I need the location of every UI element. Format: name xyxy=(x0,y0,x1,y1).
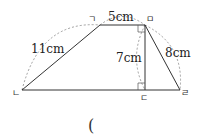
label-height: 7cm xyxy=(116,51,142,65)
vertex-top-left: ㄱ xyxy=(88,14,96,24)
trapezoid-outline xyxy=(22,25,180,90)
trapezoid-diagram: 5cm 11cm 7cm 8cm ㄱ ㅁ ㄴ ㄷ ㄹ ( xyxy=(0,0,212,139)
vertex-bottom-right: ㄹ xyxy=(181,88,189,98)
answer-paren: ( xyxy=(88,116,94,135)
label-top-side: 5cm xyxy=(108,10,134,24)
right-angle-bottom xyxy=(138,83,145,90)
right-angle-top xyxy=(138,25,145,32)
label-right-side: 8cm xyxy=(165,46,191,60)
label-left-side: 11cm xyxy=(31,42,65,56)
vertex-foot: ㄷ xyxy=(140,93,148,103)
vertex-bottom-left: ㄴ xyxy=(12,88,20,98)
vertex-top-right: ㅁ xyxy=(146,14,154,24)
